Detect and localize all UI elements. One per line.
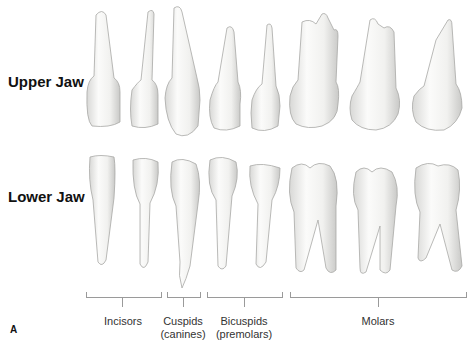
- teeth-diagram: Upper Jaw Lower Jaw: [0, 0, 471, 348]
- lower-lateral-incisor: [133, 158, 158, 267]
- lower-first-premolar: [209, 157, 237, 269]
- cuspids-label: Cuspids (canines): [158, 315, 208, 341]
- teeth-illustration: [0, 0, 471, 290]
- bicuspids-bracket: [207, 292, 283, 298]
- upper-second-premolar: [251, 24, 280, 131]
- molars-bracket-tick: [378, 298, 379, 307]
- upper-first-molar: [290, 14, 339, 128]
- lower-central-incisor: [89, 156, 115, 265]
- upper-lateral-incisor: [131, 10, 159, 127]
- upper-central-incisor: [87, 12, 120, 127]
- bicuspids-label: Bicuspids (premolars): [212, 315, 276, 341]
- figure-letter: A: [10, 324, 17, 335]
- incisors-bracket-tick: [122, 298, 123, 307]
- lower-third-molar: [415, 163, 462, 271]
- upper-third-molar: [412, 20, 462, 131]
- cuspids-bracket-tick: [183, 298, 184, 307]
- lower-second-premolar: [250, 164, 280, 267]
- lower-first-molar: [289, 163, 337, 272]
- upper-second-molar: [350, 19, 400, 130]
- incisors-bracket: [86, 292, 162, 298]
- bicuspids-bracket-tick: [244, 298, 245, 307]
- lower-canine: [171, 159, 200, 288]
- upper-canine: [165, 7, 200, 136]
- lower-second-molar: [353, 168, 397, 273]
- incisors-label: Incisors: [93, 315, 153, 328]
- cuspids-bracket: [167, 292, 201, 298]
- molars-label: Molars: [348, 315, 408, 328]
- upper-first-premolar: [210, 27, 241, 130]
